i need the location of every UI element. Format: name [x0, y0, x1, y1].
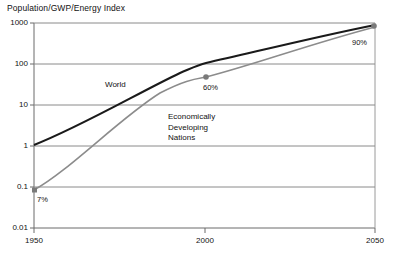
chart-container: Population/GWP/Energy Index 1000 1	[0, 0, 395, 256]
annotation-90-percent: 90%	[352, 38, 367, 47]
y-axis-label-100: 100	[0, 59, 28, 68]
series-label-world: World	[105, 80, 126, 89]
series-label-line-2: Developing	[168, 123, 215, 134]
y-axis-label-0-01: 0.01	[0, 223, 28, 232]
data-marker-7-percent	[32, 188, 37, 193]
y-axis-label-10: 10	[0, 100, 28, 109]
series-label-line-1: Economically	[168, 112, 215, 123]
data-marker-90-percent	[371, 23, 377, 29]
data-marker-60-percent	[203, 74, 209, 80]
x-axis-label-2050: 2050	[357, 236, 393, 245]
series-line-economically-developing-nations	[34, 27, 375, 190]
annotation-7-percent: 7%	[37, 195, 48, 204]
series-label-line-3: Nations	[168, 133, 215, 144]
y-axis-label-1000: 1000	[0, 18, 28, 27]
x-axis-label-1950: 1950	[16, 236, 52, 245]
annotation-60-percent: 60%	[203, 83, 218, 92]
x-axis-label-2000: 2000	[187, 236, 223, 245]
y-axis-label-1: 1	[0, 141, 28, 150]
y-axis-label-0-1: 0.1	[0, 182, 28, 191]
series-label-economically-developing-nations: Economically Developing Nations	[168, 112, 215, 144]
